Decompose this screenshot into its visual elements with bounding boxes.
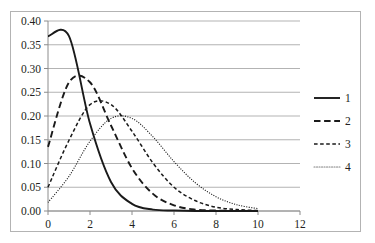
y-tick-label: 0.20 bbox=[21, 110, 41, 122]
legend-label: 3 bbox=[345, 138, 351, 150]
x-tick-label: 8 bbox=[213, 218, 219, 230]
chart-plot: 0.000.050.100.150.200.250.300.350.400246… bbox=[11, 12, 360, 231]
y-tick-label: 0.30 bbox=[21, 63, 41, 75]
x-tick-label: 0 bbox=[45, 218, 51, 230]
x-tick-label: 10 bbox=[252, 218, 264, 230]
legend-label: 4 bbox=[345, 161, 351, 173]
y-tick-label: 0.00 bbox=[21, 205, 41, 217]
y-tick-label: 0.25 bbox=[21, 86, 41, 98]
y-tick-label: 0.15 bbox=[21, 134, 41, 146]
y-tick-label: 0.40 bbox=[21, 15, 41, 27]
x-tick-label: 6 bbox=[171, 218, 177, 230]
y-tick-label: 0.10 bbox=[21, 158, 41, 170]
series-line bbox=[48, 75, 258, 211]
legend-label: 1 bbox=[345, 92, 351, 104]
y-tick-label: 0.05 bbox=[21, 181, 41, 193]
y-tick-label: 0.35 bbox=[21, 39, 41, 51]
x-tick-label: 12 bbox=[294, 218, 306, 230]
chart-frame: 0.000.050.100.150.200.250.300.350.400246… bbox=[10, 11, 361, 232]
legend-label: 2 bbox=[345, 115, 351, 127]
x-tick-label: 2 bbox=[87, 218, 93, 230]
x-tick-label: 4 bbox=[129, 218, 135, 230]
